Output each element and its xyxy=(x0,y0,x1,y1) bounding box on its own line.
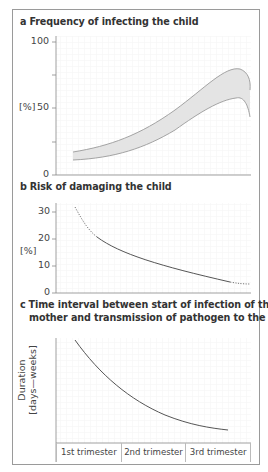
panel-c-title-line1: Time interval between start of infection… xyxy=(29,299,268,310)
panel-a-letter: a xyxy=(20,16,26,27)
panel-b-title: bRisk of damaging the child xyxy=(20,181,172,192)
trimester-2-label: 2nd trimester xyxy=(121,443,186,462)
panel-b-ytick-10: 10 xyxy=(20,259,50,270)
panel-c-letter: c xyxy=(20,299,26,310)
panel-c-ylabel-line1: Duration xyxy=(16,340,27,420)
panel-b-letter: b xyxy=(20,181,27,192)
trimester-axis: 1st trimester 2nd trimester 3rd trimeste… xyxy=(56,443,251,462)
panel-b-ylabel: [%] xyxy=(20,245,36,256)
panel-a-title-text: Frequency of infecting the child xyxy=(29,16,198,27)
panel-c-ylabel: Duration [days—weeks] xyxy=(16,340,40,420)
panel-b-grid xyxy=(56,203,251,293)
trimester-3-label: 3rd trimester xyxy=(185,443,251,462)
trimester-1-label: 1st trimester xyxy=(56,443,121,462)
panel-a-title: aFrequency of infecting the child xyxy=(20,16,198,27)
panel-b-ytick-20: 20 xyxy=(20,232,50,243)
panel-c-title-line2: mother and transmission of pathogen to t… xyxy=(29,312,268,323)
panel-a-ytick-100: 100 xyxy=(19,35,49,46)
panel-c-ylabel-line2: [days—weeks] xyxy=(27,340,38,420)
panel-b-plot xyxy=(52,203,251,293)
panel-b-title-text: Risk of damaging the child xyxy=(30,181,172,192)
panel-b-ytick-30: 30 xyxy=(20,205,50,216)
panel-a-plot xyxy=(52,36,251,175)
panel-a-ytick-0: 0 xyxy=(19,168,49,179)
panel-c-title: cTime interval between start of infectio… xyxy=(20,299,268,310)
panel-a-ylabel: [%] xyxy=(19,101,35,112)
panel-b-ytick-0: 0 xyxy=(20,286,50,297)
